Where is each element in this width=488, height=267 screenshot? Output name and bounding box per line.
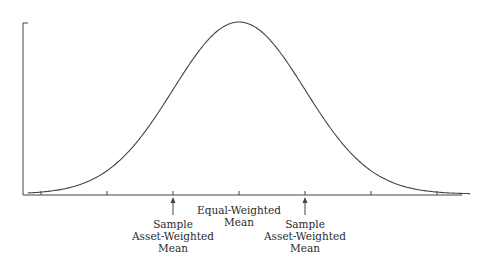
annotation-label-left-sample: Asset-Weighted [131, 230, 214, 242]
annotation-label-right-sample: Sample [285, 218, 325, 230]
arrow-up-icon [171, 197, 176, 203]
annotation-label-left-sample: Sample [153, 218, 193, 230]
annotation-label-center: Equal-Weighted [197, 204, 281, 216]
annotation-label-right-sample: Mean [290, 242, 320, 254]
distribution-curve [28, 22, 470, 194]
axis-ticks [41, 191, 437, 195]
arrow-up-icon [303, 197, 308, 203]
annotation-label-left-sample: Mean [158, 242, 188, 254]
annotations: SampleAsset-WeightedMeanEqual-WeightedMe… [131, 197, 346, 254]
annotation-label-right-sample: Asset-Weighted [263, 230, 346, 242]
annotation-label-center: Mean [224, 216, 254, 228]
distribution-diagram: SampleAsset-WeightedMeanEqual-WeightedMe… [0, 0, 488, 267]
